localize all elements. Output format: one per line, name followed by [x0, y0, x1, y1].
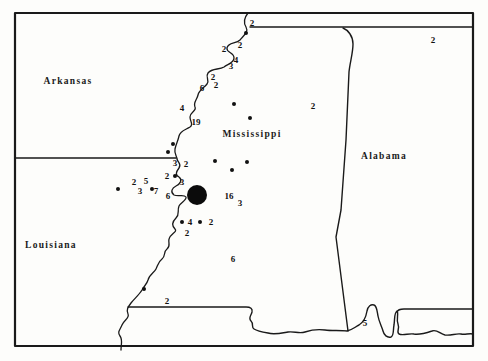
locality-dot [230, 168, 234, 172]
count-label: 7 [154, 186, 159, 196]
count-label: 2 [165, 171, 170, 181]
count-label: 2 [222, 44, 227, 54]
locality-dot [180, 220, 184, 224]
count-label: 2 [238, 40, 243, 50]
count-label: 2 [184, 159, 189, 169]
count-label: 2 [311, 101, 316, 111]
count-label: 2 [250, 18, 255, 28]
locality-dot [244, 31, 248, 35]
count-label: 4 [188, 217, 193, 227]
locality-dot [171, 142, 175, 146]
count-label: 2 [214, 80, 219, 90]
locality-dot [116, 187, 120, 191]
count-label: 3 [173, 158, 178, 168]
locality-dot [198, 220, 202, 224]
count-label: 2 [185, 228, 190, 238]
state-label-alabama: Alabama [361, 151, 407, 161]
locality-dot [142, 287, 146, 291]
count-label: 6 [166, 191, 171, 201]
count-label: 2 [209, 217, 214, 227]
locality-dot [245, 160, 249, 164]
large-locality-marker [187, 185, 207, 205]
map-annotations: ArkansasMississippiAlabamaLouisiana22243… [0, 0, 488, 361]
count-label: 2 [165, 296, 170, 306]
count-label: 5 [363, 318, 368, 328]
count-label: 4 [180, 103, 185, 113]
state-label-mississippi: Mississippi [222, 129, 281, 139]
count-label: 3 [180, 177, 185, 187]
count-label: 5 [144, 176, 149, 186]
count-label: 3 [229, 61, 234, 71]
count-label: 19 [192, 117, 201, 127]
count-label: 4 [234, 55, 239, 65]
count-label: 16 [225, 191, 234, 201]
distribution-map-figure: ArkansasMississippiAlabamaLouisiana22243… [0, 0, 488, 361]
locality-dot [150, 187, 154, 191]
count-label: 6 [231, 254, 236, 264]
locality-dot [166, 150, 170, 154]
locality-dot [173, 174, 177, 178]
count-label: 2 [431, 35, 436, 45]
state-label-louisiana: Louisiana [25, 240, 77, 250]
locality-dot [213, 159, 217, 163]
count-label: 3 [238, 198, 243, 208]
locality-dot [232, 102, 236, 106]
state-label-arkansas: Arkansas [44, 76, 93, 86]
locality-dot [248, 116, 252, 120]
count-label: 2 [132, 177, 137, 187]
count-label: 3 [138, 186, 143, 196]
count-label: 6 [200, 83, 205, 93]
